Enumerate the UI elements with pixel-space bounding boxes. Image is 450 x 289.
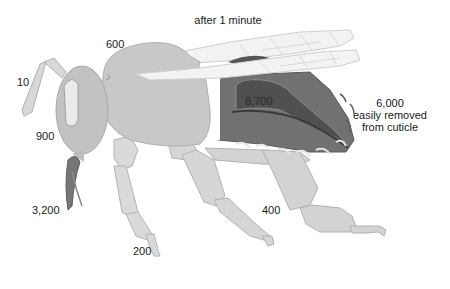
abdomen-outer-label: 6,000 easily removed from cuticle	[335, 97, 445, 133]
abdomen-inner-count-label: 8,700	[245, 95, 273, 107]
proboscis	[66, 156, 80, 210]
title-label: after 1 minute	[173, 14, 283, 26]
thorax	[100, 43, 210, 147]
fore-leg	[114, 136, 160, 256]
abdomen-outer-count: 6,000	[335, 97, 445, 109]
head	[56, 66, 108, 162]
foreleg-count-label: 200	[133, 245, 151, 257]
abdomen-outer-note-1: easily removed	[335, 109, 445, 121]
mouthparts-count-label: 3,200	[32, 204, 60, 216]
antenna-count-label: 10	[17, 76, 29, 88]
hind-leg	[205, 148, 386, 236]
head-count-label: 900	[36, 130, 54, 142]
abdomen-outer-note-2: from cuticle	[335, 121, 445, 133]
abdomen	[218, 72, 354, 156]
hindleg-count-label: 400	[262, 204, 280, 216]
bee-illustration	[0, 0, 450, 289]
bee-diagram: after 1 minute 600 10 900 3,200 200 400 …	[0, 0, 450, 289]
thorax-count-label: 600	[106, 38, 124, 50]
